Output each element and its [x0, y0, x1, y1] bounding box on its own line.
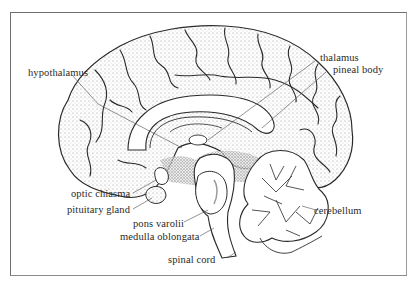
label-hypothalamus: hypothalamus [28, 68, 88, 79]
label-optic-chiasma: optic chiasma [71, 189, 130, 200]
label-pineal-body: pineal body [333, 65, 383, 76]
cropped-caption [14, 281, 404, 287]
thalamus-region [189, 135, 207, 145]
pituitary-gland [146, 186, 166, 203]
label-spinal-cord: spinal cord [168, 255, 215, 266]
pons [196, 171, 227, 214]
brain-illustration [0, 0, 418, 289]
optic-chiasma [155, 168, 169, 185]
label-pons-varolii: pons varolii [133, 219, 184, 230]
label-thalamus: thalamus [320, 53, 359, 64]
label-pituitary-gland: pituitary gland [67, 205, 130, 216]
label-cerebellum: cerebellum [314, 206, 362, 217]
label-medulla-oblongata: medulla oblongata [120, 232, 200, 243]
